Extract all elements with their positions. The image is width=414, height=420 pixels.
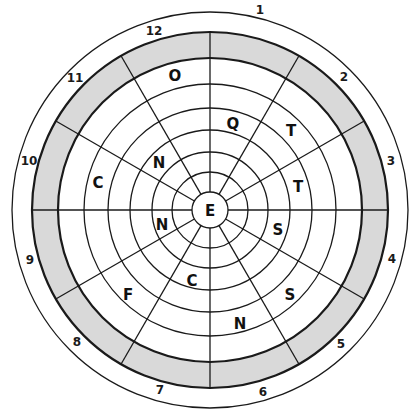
letter-sector-4: S	[273, 221, 284, 239]
clock-number-8: 8	[73, 335, 81, 349]
letter-sector-2: T	[286, 122, 297, 140]
letter-sector-6: N	[234, 315, 247, 333]
letter-sector-8: F	[123, 286, 133, 304]
letter-sector-7: C	[186, 272, 197, 290]
clock-number-2: 2	[340, 70, 348, 84]
clock-number-3: 3	[387, 154, 395, 168]
letter-sector-5: S	[285, 286, 296, 304]
clock-number-5: 5	[337, 337, 345, 351]
letter-sector-12: O	[169, 67, 182, 85]
center-letter: E	[205, 202, 215, 220]
clock-number-4: 4	[388, 252, 396, 266]
letter-sector-9: N	[156, 216, 169, 234]
clock-number-1: 1	[256, 3, 264, 17]
letter-sector-3: T	[293, 178, 304, 196]
clock-number-12: 12	[146, 24, 163, 38]
clock-number-7: 7	[156, 383, 164, 397]
letter-sector-11: N	[153, 154, 166, 172]
clock-number-6: 6	[259, 385, 267, 399]
clock-number-10: 10	[21, 154, 38, 168]
clock-number-11: 11	[67, 71, 84, 85]
circular-puzzle-grid: E 1 2 3 4 5 6 7 8 9 10 11 12 O Q T T S S…	[0, 0, 414, 420]
letter-sector-10: C	[92, 174, 103, 192]
letter-sector-1: Q	[227, 115, 240, 133]
clock-number-9: 9	[26, 253, 34, 267]
